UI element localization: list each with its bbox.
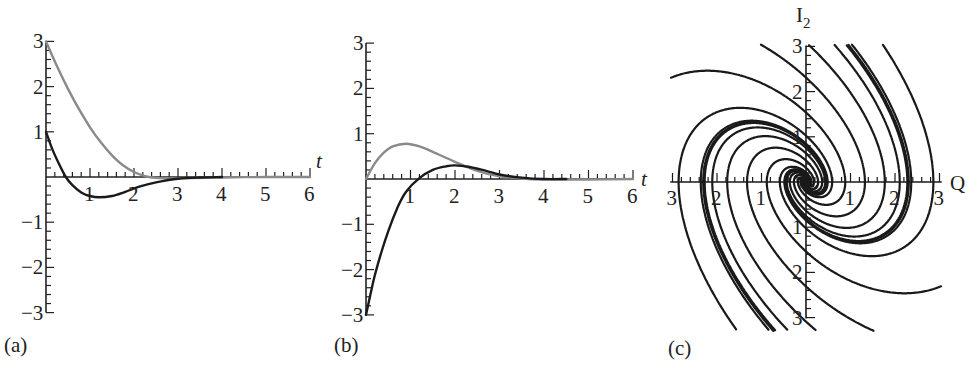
x-tick-label: 6 [627, 184, 638, 208]
panel-b-label: (b) [334, 333, 359, 357]
q-tick-label: 1 [756, 186, 767, 210]
panel-c-x-axis-label: Q [950, 171, 965, 195]
i2-tick-label: 1 [792, 125, 803, 149]
x-tick-label: 6 [304, 182, 315, 206]
q-tick-label: 3 [667, 186, 678, 210]
panel-a-time-plot: 123456−3−2−1123 t (a) [4, 29, 323, 357]
y-tick-label: 1 [353, 122, 364, 146]
panel-c-y-label-main: I [796, 3, 803, 27]
y-tick-label: −3 [21, 301, 43, 325]
x-tick-label: 4 [216, 182, 227, 206]
panel-b-time-plot: 123456−3−2−1123 t (b) [334, 31, 648, 357]
panel-c-phase-portrait: 321123321123 Q I2 (c) [667, 3, 966, 360]
i2-tick-label: 2 [792, 80, 803, 104]
i2-tick-label: 3 [792, 306, 803, 330]
q-tick-label: 3 [934, 186, 945, 210]
series-black-curve [366, 165, 566, 315]
panel-a-label: (a) [4, 333, 27, 357]
x-tick-label: 5 [260, 182, 271, 206]
panel-c-y-label-sub: 2 [803, 15, 811, 31]
i2-tick-label: 1 [792, 215, 803, 239]
y-tick-label: 2 [33, 75, 44, 99]
figure-canvas: 123456−3−2−1123 t (a) 123456−3−2−1123 t … [0, 0, 979, 370]
panel-c-y-axis-label: I2 [796, 3, 811, 31]
panel-a-x-axis-label: t [316, 149, 323, 173]
x-tick-label: 5 [583, 184, 594, 208]
trajectory-curve [727, 136, 822, 330]
x-tick-label: 2 [128, 182, 139, 206]
i2-tick-label: 2 [792, 260, 803, 284]
y-tick-label: −2 [21, 255, 43, 279]
i2-tick-label: 3 [792, 34, 803, 58]
x-tick-label: 3 [494, 184, 505, 208]
x-tick-label: 3 [172, 182, 183, 206]
series-black-curve [46, 132, 222, 198]
y-tick-label: −2 [341, 258, 363, 282]
y-tick-label: 3 [33, 29, 44, 53]
series-gray-curve [46, 41, 310, 178]
trajectory-curve [747, 148, 873, 331]
y-tick-label: 3 [353, 31, 364, 55]
q-tick-label: 2 [711, 186, 722, 210]
y-tick-label: 2 [353, 76, 364, 100]
y-tick-label: −1 [341, 212, 363, 236]
panel-c-label: (c) [668, 336, 691, 360]
x-tick-label: 2 [449, 184, 460, 208]
panel-b-curves [366, 144, 633, 315]
panel-b-x-axis-label: t [641, 167, 648, 191]
y-tick-label: −3 [341, 303, 363, 327]
q-tick-label: 2 [889, 186, 900, 210]
q-tick-label: 1 [845, 186, 856, 210]
x-tick-label: 4 [538, 184, 549, 208]
y-tick-label: −1 [21, 210, 43, 234]
y-tick-label: 1 [33, 120, 44, 144]
